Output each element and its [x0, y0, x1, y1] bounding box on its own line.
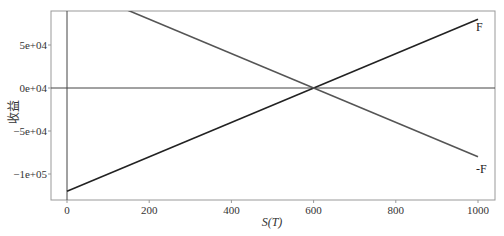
series-lines	[67, 0, 478, 191]
y-axis-label: 收益	[7, 100, 21, 124]
y-tick-label: 5e+04	[19, 39, 47, 51]
y-tick-label: −5e+04	[13, 125, 47, 137]
series-label: F	[476, 20, 483, 34]
y-tick-label: 0e+04	[19, 82, 47, 94]
x-tick-label: 800	[388, 204, 405, 216]
x-axis-ticks: 02004006008001000	[64, 200, 489, 216]
payoff-chart: 02004006008001000 5e+040e+04−5e+04−1e+05…	[0, 0, 504, 236]
x-axis-label: S(T)	[262, 215, 283, 229]
y-tick-label: −1e+05	[13, 168, 47, 180]
series-label: -F	[476, 162, 487, 176]
series-line-neg-f	[67, 0, 478, 157]
x-tick-label: 0	[64, 204, 70, 216]
series-line-f	[67, 19, 478, 191]
x-tick-label: 200	[141, 204, 158, 216]
x-tick-label: 1000	[467, 204, 490, 216]
x-tick-label: 400	[223, 204, 240, 216]
x-tick-label: 600	[305, 204, 322, 216]
